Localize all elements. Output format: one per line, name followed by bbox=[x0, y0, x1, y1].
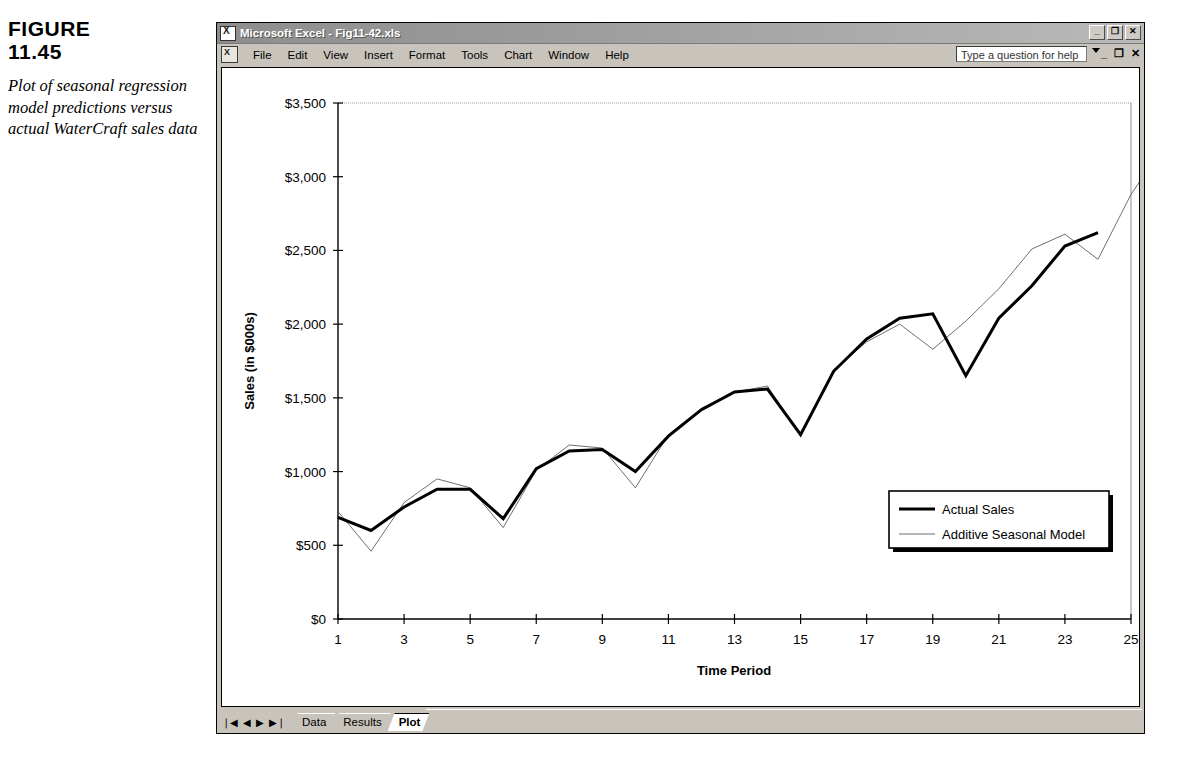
y-tick-label: $2,000 bbox=[285, 317, 326, 332]
excel-application-window: Microsoft Excel - Fig11-42.xls _ ❐ ✕ Fil… bbox=[216, 22, 1145, 734]
last-sheet-icon[interactable]: ▶❘ bbox=[269, 718, 285, 728]
x-tick-label: 19 bbox=[925, 632, 940, 647]
x-tick-label: 25 bbox=[1123, 632, 1138, 647]
next-sheet-icon[interactable]: ▶ bbox=[256, 718, 264, 728]
y-axis-title: Sales (in $000s) bbox=[242, 312, 257, 410]
figure-number-line1: FIGURE bbox=[8, 17, 90, 40]
sheet-tab-plot[interactable]: Plot bbox=[388, 713, 430, 731]
y-tick-label: $1,000 bbox=[285, 465, 326, 480]
close-icon: ✕ bbox=[1129, 26, 1137, 36]
chevron-down-icon[interactable] bbox=[1092, 48, 1100, 53]
x-tick-label: 5 bbox=[466, 632, 474, 647]
menu-bar: File Edit View Insert Format Tools Chart… bbox=[217, 44, 1144, 66]
menu-item-tools[interactable]: Tools bbox=[453, 47, 496, 63]
x-tick-label: 23 bbox=[1057, 632, 1072, 647]
menu-item-view[interactable]: View bbox=[315, 47, 356, 63]
workbook-icon[interactable] bbox=[221, 46, 238, 63]
figure-number-line2: 11.45 bbox=[8, 41, 204, 62]
document-window-controls: _ ❐ ✕ bbox=[1101, 47, 1140, 59]
doc-minimize-button[interactable]: _ bbox=[1101, 47, 1107, 59]
y-tick-label: $3,000 bbox=[285, 170, 326, 185]
minimize-button[interactable]: _ bbox=[1089, 25, 1105, 40]
x-axis-title: Time Period bbox=[697, 663, 771, 678]
menu-item-window[interactable]: Window bbox=[540, 47, 597, 63]
y-tick-label: $500 bbox=[296, 538, 326, 553]
ask-a-question-input[interactable]: Type a question for help bbox=[956, 46, 1087, 62]
tab-bar-filler bbox=[426, 709, 1142, 711]
legend-label-additive-seasonal-model: Additive Seasonal Model bbox=[942, 527, 1085, 542]
menu-item-format[interactable]: Format bbox=[401, 47, 453, 63]
title-bar: Microsoft Excel - Fig11-42.xls _ ❐ ✕ bbox=[217, 23, 1144, 44]
window-controls: _ ❐ ✕ bbox=[1089, 25, 1141, 40]
x-tick-label: 17 bbox=[859, 632, 874, 647]
menu-item-insert[interactable]: Insert bbox=[356, 47, 401, 63]
sheet-tab-bar: ❘◀ ◀ ▶ ▶❘ Data Results Plot bbox=[219, 709, 1142, 731]
sheet-tab-data[interactable]: Data bbox=[291, 713, 335, 731]
doc-restore-button[interactable]: ❐ bbox=[1114, 47, 1124, 59]
prev-sheet-icon[interactable]: ◀ bbox=[243, 718, 251, 728]
close-button[interactable]: ✕ bbox=[1125, 25, 1141, 40]
workspace: $0$500$1,000$1,500$2,000$2,500$3,000$3,5… bbox=[217, 64, 1144, 733]
menu-item-chart[interactable]: Chart bbox=[496, 47, 540, 63]
figure-number: FIGURE 11.45 bbox=[8, 18, 204, 62]
x-tick-label: 1 bbox=[334, 632, 342, 647]
minimize-icon: _ bbox=[1094, 26, 1099, 36]
menu-item-help[interactable]: Help bbox=[597, 47, 637, 63]
chart-legend[interactable]: Actual Sales Additive Seasonal Model bbox=[889, 491, 1113, 552]
sales-forecast-line-chart[interactable]: $0$500$1,000$1,500$2,000$2,500$3,000$3,5… bbox=[222, 68, 1140, 707]
sheet-tab-results[interactable]: Results bbox=[332, 713, 390, 731]
x-tick-label: 9 bbox=[599, 632, 607, 647]
first-sheet-icon[interactable]: ❘◀ bbox=[222, 718, 238, 728]
figure-caption-text: Plot of seasonal regression model predic… bbox=[8, 75, 204, 140]
y-tick-label: $0 bbox=[311, 612, 326, 627]
x-tick-label: 3 bbox=[400, 632, 408, 647]
doc-close-button[interactable]: ✕ bbox=[1131, 47, 1140, 59]
y-tick-label: $3,500 bbox=[285, 96, 326, 111]
y-axis-ticks: $0$500$1,000$1,500$2,000$2,500$3,000$3,5… bbox=[285, 96, 343, 627]
x-tick-label: 7 bbox=[532, 632, 540, 647]
sheet-navigation-arrows: ❘◀ ◀ ▶ ▶❘ bbox=[219, 718, 291, 731]
menu-item-file[interactable]: File bbox=[245, 47, 280, 63]
excel-document-icon[interactable] bbox=[220, 26, 236, 41]
chart-sheet-area[interactable]: $0$500$1,000$1,500$2,000$2,500$3,000$3,5… bbox=[221, 67, 1140, 707]
x-tick-label: 13 bbox=[727, 632, 742, 647]
x-tick-label: 21 bbox=[991, 632, 1006, 647]
restore-button[interactable]: ❐ bbox=[1107, 25, 1123, 40]
y-tick-label: $2,500 bbox=[285, 243, 326, 258]
y-tick-label: $1,500 bbox=[285, 391, 326, 406]
x-tick-label: 15 bbox=[793, 632, 808, 647]
legend-label-actual-sales: Actual Sales bbox=[942, 502, 1015, 517]
window-title: Microsoft Excel - Fig11-42.xls bbox=[240, 27, 400, 39]
restore-icon: ❐ bbox=[1111, 26, 1119, 36]
menu-item-edit[interactable]: Edit bbox=[280, 47, 316, 63]
figure-caption-block: FIGURE 11.45 Plot of seasonal regression… bbox=[8, 18, 204, 140]
x-tick-label: 11 bbox=[661, 632, 675, 647]
series-line-actual-sales bbox=[338, 233, 1098, 531]
